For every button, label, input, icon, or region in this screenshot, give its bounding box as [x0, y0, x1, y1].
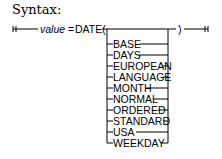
equals-sign: =	[68, 23, 74, 35]
end-marker-icon	[184, 26, 208, 32]
option-list: BASE DAYS EUROPEAN LANGUAGE MONTH NORMAL	[107, 38, 172, 149]
close-paren: )	[178, 23, 182, 35]
option-weekday: WEEKDAY	[107, 137, 168, 149]
start-marker-icon	[13, 26, 38, 32]
function-name: DATE(	[75, 23, 106, 35]
svg-text:WEEKDAY: WEEKDAY	[113, 137, 165, 149]
variable-name: value	[40, 23, 65, 35]
syntax-railroad-diagram: value = DATE( ) BASE DAYS EUROPEAN	[0, 0, 222, 159]
